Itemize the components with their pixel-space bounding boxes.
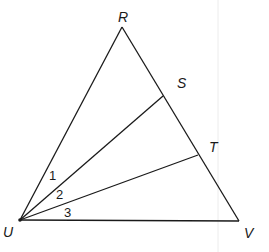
label-R: R xyxy=(118,9,128,25)
segment-UV xyxy=(20,220,239,221)
segment-UT xyxy=(20,155,198,220)
angle-label-3: 3 xyxy=(64,205,71,220)
segment-US xyxy=(20,96,163,220)
triangle-diagram: R S T U V 1 2 3 xyxy=(0,0,269,252)
label-U: U xyxy=(3,224,14,240)
segment-RU xyxy=(20,27,122,220)
label-V: V xyxy=(244,225,255,241)
triangle-segments xyxy=(20,27,239,221)
label-T: T xyxy=(209,139,219,155)
angle-label-2: 2 xyxy=(56,187,63,202)
vertex-U-dot xyxy=(18,218,22,222)
segment-RV xyxy=(122,27,239,221)
angle-label-1: 1 xyxy=(49,168,56,183)
label-S: S xyxy=(177,75,187,91)
